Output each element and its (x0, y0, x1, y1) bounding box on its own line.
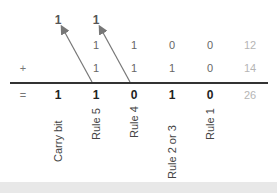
label-rule-5: Rule 5 (90, 108, 102, 140)
result-bit: 1 (169, 88, 176, 102)
row2-decimal: 14 (244, 62, 256, 74)
result-bit: 0 (207, 88, 214, 102)
result-decimal: 26 (244, 89, 256, 101)
carry-arrow-2 (101, 29, 130, 82)
row2-bit: 1 (93, 62, 99, 74)
result-bit: 1 (55, 88, 62, 102)
equals-operator: = (20, 89, 26, 101)
row2-bit: 1 (169, 62, 175, 74)
carry-arrow-1 (63, 29, 92, 82)
plus-operator: + (20, 62, 26, 74)
carry-bit-2: 1 (93, 13, 100, 27)
row2-bit: 0 (207, 62, 213, 74)
label-rule-4: Rule 4 (128, 106, 140, 138)
result-bit: 0 (131, 88, 138, 102)
label-carry-bit: Carry bit (52, 120, 64, 162)
bottom-band (0, 182, 277, 193)
label-rule-1: Rule 1 (204, 108, 216, 140)
row2-bit: 1 (131, 62, 137, 74)
carry-bit-1: 1 (55, 13, 62, 27)
sum-line (10, 82, 268, 84)
row1-bit: 1 (93, 39, 99, 51)
result-bit: 1 (93, 88, 100, 102)
row1-bit: 0 (169, 39, 175, 51)
row1-bit: 1 (131, 39, 137, 51)
row1-decimal: 12 (244, 39, 256, 51)
row1-bit: 0 (207, 39, 213, 51)
label-rule-2-or-3: Rule 2 or 3 (166, 125, 178, 179)
carry-arrows (0, 0, 277, 193)
